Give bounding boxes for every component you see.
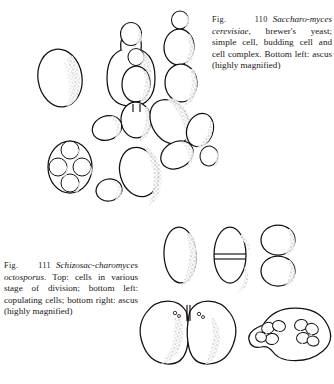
figure-110-label: Fig. xyxy=(212,15,226,24)
cell-complex-110 xyxy=(89,11,220,206)
dividing-cells-111 xyxy=(163,225,296,293)
figure-plate: Fig. 110Saccharo-myces cerevisiae, brewe… xyxy=(0,0,334,384)
division-stage-separated xyxy=(261,225,295,288)
figure-110-number: 110 xyxy=(255,15,268,24)
ascus-eight-spores-111 xyxy=(249,308,331,361)
figure-111-caption: Fig. 111Schizosac-charomyces octosporus.… xyxy=(4,260,138,318)
copulating-cells-111 xyxy=(140,301,236,365)
division-stage-septum xyxy=(214,227,250,293)
figure-111-number: 111 xyxy=(38,261,51,270)
figure-111-label: Fig. xyxy=(4,261,18,270)
simple-cell-110 xyxy=(34,46,87,112)
figure-110-caption: Fig. 110Saccharo-myces cerevisiae, brewe… xyxy=(212,14,332,72)
division-stage-undivided xyxy=(163,226,199,287)
ascus-four-spores-110 xyxy=(48,141,92,193)
